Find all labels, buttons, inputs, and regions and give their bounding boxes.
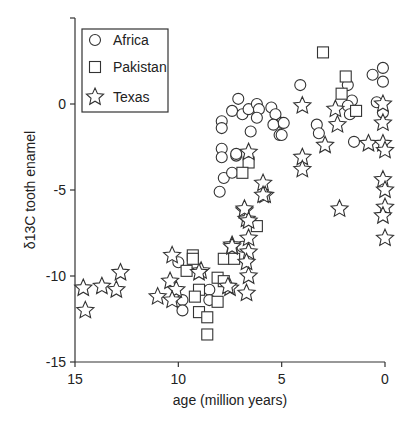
y-tick-label: -15 xyxy=(46,354,66,370)
square-marker-icon xyxy=(202,329,213,340)
x-tick-label: 5 xyxy=(278,371,286,387)
y-axis-title: δ13C tooth enamel xyxy=(22,131,38,249)
circle-marker-icon xyxy=(251,112,262,123)
square-marker-icon xyxy=(340,71,351,82)
x-axis-title: age (million years) xyxy=(173,392,287,408)
circle-marker-icon xyxy=(377,76,388,87)
star-marker-icon xyxy=(327,100,344,116)
circle-marker-icon xyxy=(177,295,188,306)
circle-marker-icon xyxy=(214,186,225,197)
star-marker-icon xyxy=(329,116,346,132)
star-marker-icon xyxy=(149,288,166,304)
circle-marker-icon xyxy=(227,167,238,178)
square-marker-icon xyxy=(351,105,362,116)
circle-marker-icon xyxy=(216,123,227,134)
star-marker-icon xyxy=(376,229,393,245)
square-marker-icon xyxy=(336,88,347,99)
star-marker-icon xyxy=(360,135,377,151)
star-marker-icon xyxy=(93,277,110,293)
circle-marker-icon xyxy=(278,117,289,128)
legend-label-pakistan: Pakistan xyxy=(113,59,167,75)
circle-marker-icon xyxy=(233,93,244,104)
circle-marker-icon xyxy=(204,284,215,295)
square-marker-icon xyxy=(212,296,223,307)
series-texas xyxy=(75,95,394,318)
circle-marker-icon xyxy=(295,80,306,91)
legend-label-texas: Texas xyxy=(113,89,150,105)
y-tick-label: -10 xyxy=(46,268,66,284)
square-marker-icon xyxy=(318,47,329,58)
star-marker-icon xyxy=(294,160,311,176)
square-legend-icon xyxy=(90,62,101,73)
circle-marker-icon xyxy=(349,136,360,147)
square-marker-icon xyxy=(218,253,229,264)
legend-label-africa: Africa xyxy=(113,32,149,48)
y-tick-label: -5 xyxy=(54,182,67,198)
circle-marker-icon xyxy=(245,126,256,137)
square-marker-icon xyxy=(189,291,200,302)
star-marker-icon xyxy=(240,267,257,283)
circle-marker-icon xyxy=(216,152,227,163)
circle-marker-icon xyxy=(177,305,188,316)
y-tick-label: 0 xyxy=(58,96,66,112)
circle-marker-icon xyxy=(377,62,388,73)
circle-marker-icon xyxy=(367,69,378,80)
star-marker-icon xyxy=(331,200,348,216)
star-marker-icon xyxy=(112,264,129,280)
square-marker-icon xyxy=(181,265,192,276)
legend: AfricaPakistanTexas xyxy=(82,29,168,112)
star-marker-icon xyxy=(294,97,311,113)
scatter-plot: 0-5-10-15151050 AfricaPakistanTexas age … xyxy=(0,0,411,430)
star-marker-icon xyxy=(238,284,255,300)
square-marker-icon xyxy=(187,253,198,264)
circle-marker-icon xyxy=(227,105,238,116)
square-marker-icon xyxy=(237,167,248,178)
star-marker-icon xyxy=(77,301,94,317)
star-marker-icon xyxy=(75,279,92,295)
x-tick-label: 10 xyxy=(171,371,187,387)
x-tick-label: 15 xyxy=(67,371,83,387)
circle-marker-icon xyxy=(268,119,279,130)
circle-marker-icon xyxy=(313,128,324,139)
star-marker-icon xyxy=(224,238,241,254)
circle-legend-icon xyxy=(90,35,101,46)
square-marker-icon xyxy=(202,312,213,323)
star-marker-icon xyxy=(374,114,391,130)
x-tick-label: 0 xyxy=(381,371,389,387)
circle-marker-icon xyxy=(276,129,287,140)
